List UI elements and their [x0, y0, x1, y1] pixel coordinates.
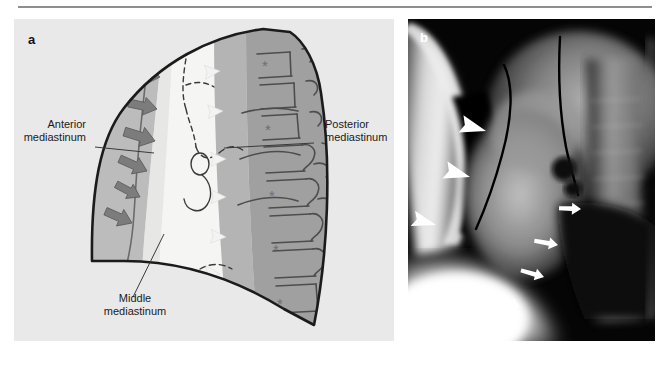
label-middle-line1: Middle	[80, 292, 190, 305]
label-posterior-mediastinum: Posterior mediastinum	[325, 118, 397, 144]
paratracheal-opacity	[564, 181, 582, 197]
asterisk-marker: *	[265, 121, 271, 138]
panel-b-radiograph: b	[408, 19, 655, 341]
label-anterior-line1: Anterior	[18, 118, 86, 131]
hilar-nodal-opacity	[552, 157, 576, 181]
lateral-chest-radiograph-svg	[408, 19, 655, 341]
label-anterior-mediastinum: Anterior mediastinum	[18, 118, 86, 144]
label-middle-line2: mediastinum	[80, 305, 190, 318]
label-posterior-line1: Posterior	[325, 118, 397, 131]
mediastinum-diagram-svg: * * * * *	[14, 19, 394, 341]
asterisk-marker: *	[262, 57, 268, 74]
top-rule-divider	[18, 6, 652, 8]
panel-a-letter: a	[28, 33, 35, 46]
figure-root: * * * * *	[0, 0, 669, 365]
label-anterior-line2: mediastinum	[18, 131, 86, 144]
asterisk-marker: *	[269, 187, 275, 204]
label-posterior-line2: mediastinum	[325, 131, 397, 144]
panel-a-diagram: * * * * *	[14, 19, 394, 341]
label-middle-mediastinum: Middle mediastinum	[80, 292, 190, 318]
panel-b-letter: b	[420, 31, 428, 44]
asterisk-marker: *	[273, 241, 279, 258]
